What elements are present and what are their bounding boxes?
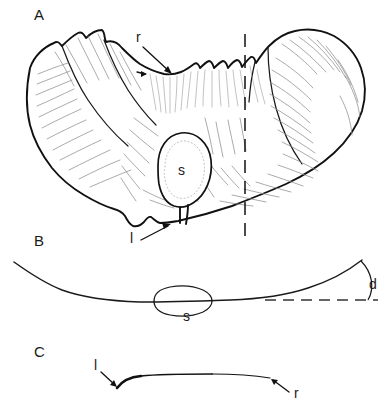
- panel-a-letter: A: [34, 6, 44, 23]
- figure-background: [0, 0, 389, 414]
- panel-c-letter: C: [34, 343, 45, 360]
- figure-root: A: [0, 0, 389, 414]
- scientific-figure-canvas: A: [0, 0, 389, 414]
- scar-label-a: s: [178, 162, 185, 178]
- ridge-label-a: r: [136, 29, 141, 45]
- lip-label-c: l: [94, 357, 97, 373]
- panel-b-letter: B: [34, 232, 44, 249]
- divergence-angle-label: d: [369, 276, 377, 292]
- ridge-label-c: r: [294, 385, 299, 401]
- lip-label-a: l: [130, 230, 133, 246]
- scar-label-b: s: [183, 308, 190, 324]
